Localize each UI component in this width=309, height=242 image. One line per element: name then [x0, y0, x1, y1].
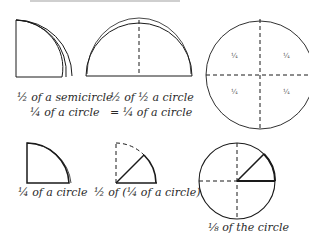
quadrant-label-tr: ¼: [283, 52, 290, 60]
semicircle-label-2: = ¼ of a circle: [110, 107, 192, 119]
semicircle-shape: [86, 18, 192, 76]
folded-quarter-label-1: ½ of a semicircle: [17, 92, 113, 104]
folded-quarter-shape: [16, 20, 72, 77]
fraction-diagram: [0, 0, 309, 242]
eighth-circle-label: ⅛ of the circle: [208, 222, 289, 234]
quadrant-label-br: ¼: [283, 88, 290, 96]
quartered-circle-shape: [206, 19, 309, 130]
eighth-circle-shape: [199, 143, 275, 219]
half-quarter-shape: [116, 143, 157, 183]
quarter-circle-shape: [27, 143, 71, 183]
half-quarter-label: ½ of (¼ of a circle): [94, 187, 200, 199]
folded-quarter-label-2: ¼ of a circle: [30, 107, 100, 119]
quadrant-label-tl: ¼: [231, 52, 238, 60]
semicircle-label-1: ½ of ½ a circle: [110, 92, 194, 104]
quadrant-label-bl: ¼: [231, 88, 238, 96]
quarter-label: ¼ of a circle: [18, 187, 88, 199]
